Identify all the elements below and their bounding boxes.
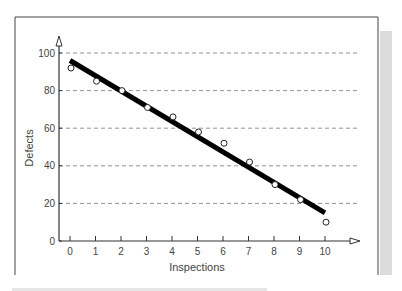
x-tick-label: 8 xyxy=(271,246,277,257)
data-point-marker xyxy=(247,159,253,165)
axes xyxy=(56,36,360,244)
tick-labels: 012345678910020406080100 xyxy=(38,48,331,258)
gridlines xyxy=(59,53,358,203)
data-points xyxy=(68,65,329,225)
chart-figure: 012345678910020406080100 Inspections Def… xyxy=(0,0,402,291)
x-tick-label: 3 xyxy=(144,246,150,257)
x-tick-label: 6 xyxy=(220,246,226,257)
y-tick-label: 60 xyxy=(44,123,56,134)
data-point-marker xyxy=(68,65,74,71)
data-point-marker xyxy=(221,140,227,146)
data-point-marker xyxy=(170,114,176,120)
fitted-line xyxy=(70,61,325,213)
y-axis-arrow-icon xyxy=(56,36,62,46)
data-point-marker xyxy=(272,182,278,188)
x-tick-label: 1 xyxy=(93,246,99,257)
y-tick-label: 20 xyxy=(44,198,56,209)
data-point-marker xyxy=(119,88,125,94)
x-tick-label: 10 xyxy=(319,246,331,257)
data-point-marker xyxy=(94,78,100,84)
x-tick-label: 9 xyxy=(297,246,303,257)
x-tick-label: 4 xyxy=(169,246,175,257)
y-tick-label: 80 xyxy=(44,85,56,96)
y-tick-label: 0 xyxy=(49,236,55,247)
y-tick-label: 100 xyxy=(38,48,55,59)
data-point-marker xyxy=(298,197,304,203)
y-axis-label: Defects xyxy=(23,129,35,167)
x-axis-arrow-icon xyxy=(350,238,360,244)
data-point-marker xyxy=(323,219,329,225)
x-tick-label: 7 xyxy=(246,246,252,257)
page-shade-strip xyxy=(380,31,392,275)
y-tick-label: 40 xyxy=(44,160,56,171)
x-tick-label: 0 xyxy=(67,246,73,257)
x-axis-label: Inspections xyxy=(169,261,225,273)
figure-frame xyxy=(15,17,378,275)
data-point-marker xyxy=(145,105,151,111)
data-point-marker xyxy=(196,129,202,135)
x-tick-label: 2 xyxy=(118,246,124,257)
regression-line xyxy=(70,61,325,213)
x-tick-label: 5 xyxy=(195,246,201,257)
